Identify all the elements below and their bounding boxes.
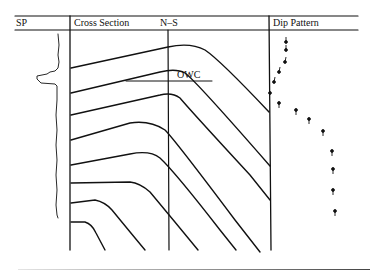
column-header-orientation: N–S — [160, 17, 178, 29]
owc-label: OWC — [177, 70, 200, 80]
divider-cross-dip — [269, 16, 271, 250]
column-header-cross-section: Cross Section — [74, 17, 129, 29]
dip-pattern-tadpoles — [269, 37, 337, 216]
column-header-sp: SP — [16, 17, 27, 29]
column-header-dip-pattern: Dip Pattern — [273, 17, 319, 29]
sp-log-curve — [37, 34, 59, 218]
strata-beds — [71, 45, 270, 252]
cross-section-figure — [0, 0, 382, 270]
well-line-middle — [168, 30, 169, 250]
